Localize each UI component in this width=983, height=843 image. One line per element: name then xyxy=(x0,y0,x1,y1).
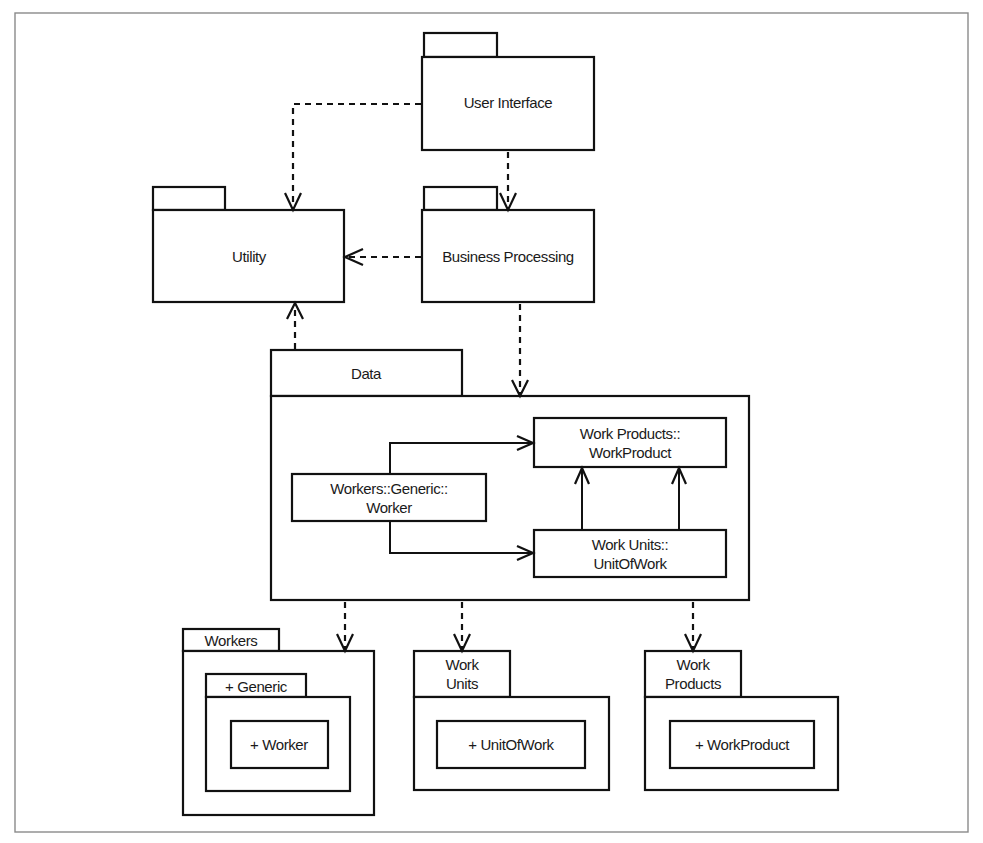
uml-package-diagram: User Interface Utility Business Processi… xyxy=(0,0,983,843)
package-label-line1: Work xyxy=(676,656,710,673)
package-label: Data xyxy=(351,365,382,382)
class-label-line1: Workers::Generic:: xyxy=(330,480,448,497)
class-label-line2: WorkProduct xyxy=(589,444,672,461)
package-label: + Generic xyxy=(225,678,288,695)
class-work-product[interactable]: Work Products:: WorkProduct xyxy=(534,418,726,467)
package-workers[interactable]: Workers + Generic + Worker xyxy=(183,629,374,815)
package-work-units[interactable]: Work Units + UnitOfWork xyxy=(414,651,609,790)
dependency-data-to-work-units xyxy=(454,602,470,651)
package-utility[interactable]: Utility xyxy=(153,187,344,302)
class-workproduct-member[interactable]: + WorkProduct xyxy=(670,721,814,768)
class-label: + Worker xyxy=(250,736,308,753)
dependency-data-to-utility xyxy=(287,303,303,349)
dependency-ui-to-business xyxy=(500,152,516,210)
class-label-line1: Work Units:: xyxy=(592,536,669,553)
package-label-line1: Work xyxy=(445,656,479,673)
class-label-line1: Work Products:: xyxy=(580,425,680,442)
class-unitofwork-member[interactable]: + UnitOfWork xyxy=(437,721,585,768)
class-label-line2: UnitOfWork xyxy=(593,555,667,572)
class-worker-member[interactable]: + Worker xyxy=(231,721,328,768)
dependency-business-to-utility xyxy=(345,249,421,265)
dependency-data-to-work-products xyxy=(685,602,701,651)
class-worker[interactable]: Workers::Generic:: Worker xyxy=(292,474,486,521)
package-business-processing[interactable]: Business Processing xyxy=(422,187,594,302)
package-label: Business Processing xyxy=(442,248,574,265)
package-label: Utility xyxy=(232,248,267,265)
class-label-line2: Worker xyxy=(366,499,412,516)
class-label: + UnitOfWork xyxy=(468,736,554,753)
package-tab xyxy=(424,187,497,210)
package-user-interface[interactable]: User Interface xyxy=(422,33,594,150)
package-label-line2: Products xyxy=(665,675,721,692)
package-work-products[interactable]: Work Products + WorkProduct xyxy=(645,651,838,790)
class-unit-of-work[interactable]: Work Units:: UnitOfWork xyxy=(534,530,726,577)
package-label: Workers xyxy=(205,632,258,649)
package-tab xyxy=(153,187,225,210)
package-label: User Interface xyxy=(464,94,553,111)
package-data[interactable]: Data Work Products:: WorkProduct Workers… xyxy=(271,350,749,600)
package-label-line2: Units xyxy=(446,675,478,692)
class-label: + WorkProduct xyxy=(695,736,790,753)
dependency-data-to-workers xyxy=(337,602,353,651)
package-tab xyxy=(424,33,497,57)
dependency-ui-to-utility xyxy=(285,104,421,210)
dependency-business-to-data xyxy=(512,304,528,396)
